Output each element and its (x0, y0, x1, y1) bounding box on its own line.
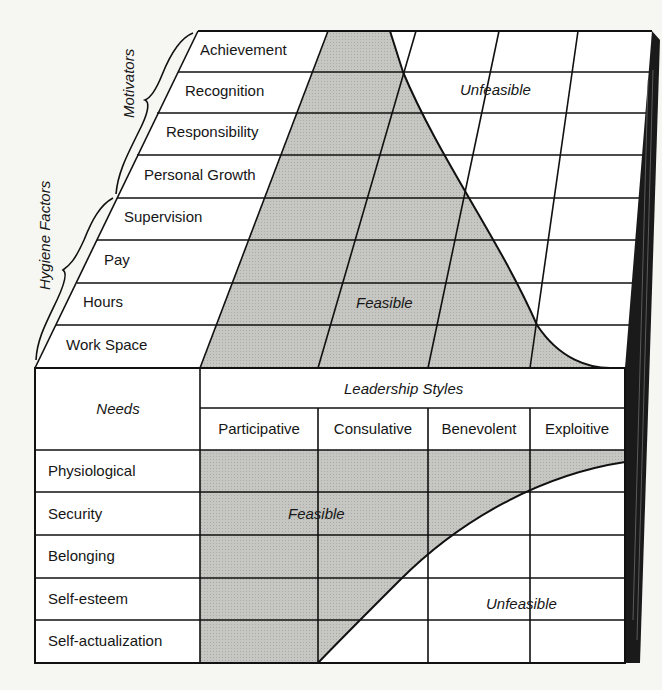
column-header-consulative: Consulative (334, 420, 412, 437)
top-row-label: Achievement (200, 41, 287, 58)
column-header-exploitive: Exploitive (545, 420, 609, 437)
top-row-label: Personal Growth (144, 166, 256, 183)
leadership-styles-header: Leadership Styles (344, 380, 463, 397)
column-header-participative: Participative (218, 420, 300, 437)
needs-row-label: Self-esteem (48, 590, 128, 607)
top-row-label: Work Space (66, 336, 147, 353)
top-row-label: Recognition (185, 82, 264, 99)
top-row-label: Pay (104, 251, 130, 268)
top-feasible-label: Feasible (356, 294, 413, 311)
top-row-label: Hours (83, 293, 123, 310)
needs-row-label: Physiological (48, 462, 136, 479)
top-row-label: Supervision (124, 208, 202, 225)
bottom-feasible-label: Feasible (288, 505, 345, 522)
bottom-unfeasible-label: Unfeasible (486, 595, 557, 612)
motivators-group-label: Motivators (120, 49, 137, 118)
needs-header: Needs (96, 400, 139, 417)
needs-row-label: Self-actualization (48, 632, 162, 649)
top-row-label: Responsibility (166, 123, 259, 140)
column-header-benevolent: Benevolent (441, 420, 516, 437)
top-unfeasible-label: Unfeasible (460, 81, 531, 98)
hygiene-group-label: Hygiene Factors (36, 181, 53, 290)
needs-row-label: Belonging (48, 547, 115, 564)
needs-row-label: Security (48, 505, 102, 522)
